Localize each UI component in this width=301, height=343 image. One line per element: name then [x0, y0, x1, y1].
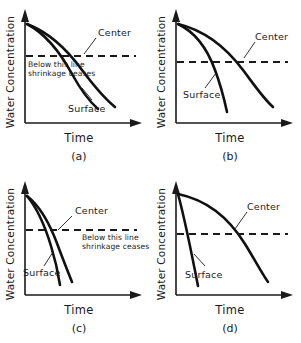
y-axis-label-c: Water Concentration: [4, 188, 16, 300]
note-line1-c: Below this line: [82, 233, 139, 242]
curve-label-center-b: Center: [255, 31, 288, 42]
panel-caption-b: (b): [222, 150, 238, 163]
x-axis-label-c: Time: [63, 303, 93, 317]
panel-a: Center Surface Below this line shrinkage…: [0, 0, 150, 171]
y-axis-arrowhead: [172, 9, 180, 22]
note-line2-c: shrinkage ceases: [82, 242, 149, 251]
curve-label-surface-b: Surface: [183, 89, 221, 100]
note-line1-a: Below this line: [28, 60, 85, 69]
leader-surface-c: [44, 252, 53, 266]
leader-center-a: [84, 38, 96, 54]
leader-surface-d: [194, 254, 205, 266]
note-line2-a: shrinkage ceases: [28, 69, 95, 78]
figure-container: Center Surface Below this line shrinkage…: [0, 0, 301, 343]
curve-label-surface-c: Surface: [23, 267, 61, 278]
y-axis-arrowhead: [21, 9, 29, 22]
x-axis-label-d: Time: [214, 303, 244, 317]
x-axis-arrowhead: [130, 119, 142, 127]
x-axis-arrowhead: [130, 291, 142, 299]
panel-b: Center Surface Water Concentration Time …: [151, 0, 301, 171]
y-axis-label-d: Water Concentration: [155, 188, 167, 300]
x-axis-label-b: Time: [214, 131, 244, 145]
curve-label-center-a: Center: [98, 27, 131, 38]
curve-label-center-d: Center: [247, 201, 280, 212]
panel-c: Center Surface Below this line shrinkage…: [0, 172, 150, 343]
curve-label-surface-d: Surface: [185, 269, 223, 280]
y-axis-label-a: Water Concentration: [4, 16, 16, 128]
y-axis-arrowhead: [21, 181, 29, 194]
panel-caption-d: (d): [222, 322, 238, 335]
y-axis-label-b: Water Concentration: [155, 16, 167, 128]
x-axis-arrowhead: [281, 119, 293, 127]
leader-center-c: [58, 216, 72, 230]
x-axis-label-a: Time: [63, 131, 93, 145]
panel-d: Center Surface Water Concentration Time …: [151, 172, 301, 343]
panel-caption-a: (a): [71, 150, 86, 163]
y-axis-arrowhead: [172, 181, 180, 194]
leader-center-d: [235, 212, 247, 229]
curve-label-surface-a: Surface: [68, 103, 106, 114]
leader-center-b: [244, 42, 255, 58]
panel-caption-c: (c): [72, 322, 87, 335]
leader-surface-b: [205, 73, 216, 88]
x-axis-arrowhead: [281, 291, 293, 299]
curve-label-center-c: Center: [75, 205, 108, 216]
